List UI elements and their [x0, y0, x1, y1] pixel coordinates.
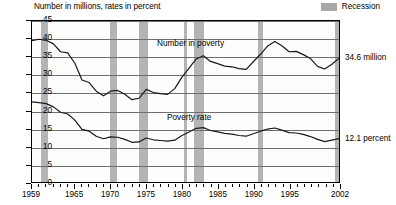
x-tick-mark: [175, 184, 176, 187]
x-tick-label: 1985: [203, 190, 233, 199]
x-tick-mark: [275, 184, 276, 187]
x-tick-mark-major: [110, 184, 111, 189]
x-tick-mark-major: [31, 184, 32, 189]
x-tick-mark: [239, 184, 240, 187]
x-tick-mark: [132, 184, 133, 187]
y-tick-mark: [26, 147, 31, 148]
x-tick-mark-major: [290, 184, 291, 189]
y-tick-label: 15: [30, 124, 52, 133]
y-tick-label: 5: [30, 160, 52, 169]
y-tick-mark: [26, 20, 31, 21]
x-tick-mark: [311, 184, 312, 187]
x-tick-label: 1990: [239, 190, 269, 199]
y-tick-label: 35: [30, 51, 52, 60]
x-tick-mark: [247, 184, 248, 187]
legend-label-recession: Recession: [342, 2, 380, 11]
series-line: [32, 102, 339, 142]
series-line: [32, 39, 339, 99]
legend: Recession: [321, 2, 380, 11]
x-tick-mark: [189, 184, 190, 187]
y-tick-label: 0: [30, 178, 52, 187]
y-tick-label: 40: [30, 33, 52, 42]
series-label-poverty-rate: Poverty rate: [167, 113, 211, 122]
x-tick-mark: [45, 184, 46, 187]
y-tick-label: 30: [30, 69, 52, 78]
x-tick-mark: [333, 184, 334, 187]
x-tick-mark: [203, 184, 204, 187]
y-tick-mark: [26, 111, 31, 112]
x-tick-mark: [297, 184, 298, 187]
series-label-number-in-poverty: Number in poverty: [157, 39, 224, 48]
x-tick-mark: [38, 184, 39, 187]
y-tick-label: 20: [30, 106, 52, 115]
y-tick-label: 10: [30, 142, 52, 151]
x-tick-label: 1975: [131, 190, 161, 199]
x-tick-mark: [304, 184, 305, 187]
x-tick-mark: [139, 184, 140, 187]
y-tick-mark: [26, 38, 31, 39]
x-tick-mark: [160, 184, 161, 187]
x-tick-mark: [81, 184, 82, 187]
x-tick-mark: [53, 184, 54, 187]
x-tick-mark-major: [74, 184, 75, 189]
y-tick-mark: [26, 129, 31, 130]
x-tick-mark: [153, 184, 154, 187]
x-tick-mark-major: [146, 184, 147, 189]
y-tick-label: 45: [30, 15, 52, 24]
x-tick-mark: [211, 184, 212, 187]
y-tick-label: 25: [30, 87, 52, 96]
x-tick-label: 1970: [95, 190, 125, 199]
x-tick-mark: [318, 184, 319, 187]
x-tick-mark: [96, 184, 97, 187]
x-tick-mark: [225, 184, 226, 187]
end-value-rate: 12.1 percent: [345, 134, 391, 143]
x-tick-mark: [103, 184, 104, 187]
x-tick-mark: [283, 184, 284, 187]
x-tick-mark: [261, 184, 262, 187]
y-tick-mark: [26, 56, 31, 57]
x-tick-mark: [232, 184, 233, 187]
x-tick-mark: [196, 184, 197, 187]
y-tick-mark: [26, 165, 31, 166]
x-tick-mark: [60, 184, 61, 187]
x-tick-label: 1995: [275, 190, 305, 199]
recession-swatch-icon: [321, 3, 337, 11]
x-tick-mark: [268, 184, 269, 187]
x-tick-label: 1980: [167, 190, 197, 199]
x-tick-mark: [117, 184, 118, 187]
x-tick-mark: [124, 184, 125, 187]
x-tick-label: 2002: [325, 190, 355, 199]
y-tick-mark: [26, 92, 31, 93]
x-tick-label: 1965: [59, 190, 89, 199]
x-tick-mark: [67, 184, 68, 187]
x-tick-mark-major: [218, 184, 219, 189]
y-tick-mark: [26, 74, 31, 75]
x-tick-mark-major: [182, 184, 183, 189]
x-tick-mark: [88, 184, 89, 187]
x-tick-mark-major: [340, 184, 341, 189]
poverty-chart-figure: Number in millions, rates in percent Rec…: [0, 0, 396, 205]
x-tick-mark: [168, 184, 169, 187]
end-value-number: 34.6 million: [345, 53, 386, 62]
x-tick-label: 1959: [16, 190, 46, 199]
x-tick-mark: [326, 184, 327, 187]
axis-title: Number in millions, rates in percent: [34, 2, 161, 11]
x-tick-mark-major: [254, 184, 255, 189]
